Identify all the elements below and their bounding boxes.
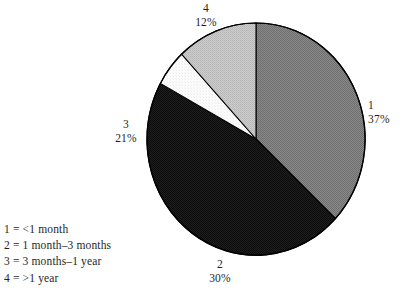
pie-label-slice-3-value: 21% bbox=[100, 132, 152, 146]
pie-svg bbox=[146, 22, 366, 256]
pie-label-slice-1: 1 37% bbox=[368, 99, 418, 126]
pie-label-slice-4: 4 12% bbox=[178, 2, 234, 29]
legend-item-4: 4 = >1 year bbox=[4, 270, 111, 286]
legend-item-2: 2 = 1 month–3 months bbox=[4, 237, 111, 253]
pie-label-slice-3-key: 3 bbox=[100, 118, 152, 132]
legend-item-3: 3 = 3 months–1 year bbox=[4, 253, 111, 269]
pie-label-slice-4-value: 12% bbox=[178, 16, 234, 30]
pie-label-slice-2: 2 30% bbox=[188, 258, 252, 285]
pie-label-slice-2-key: 2 bbox=[188, 258, 252, 272]
pie-label-slice-4-key: 4 bbox=[178, 2, 234, 16]
pie-chart-figure: 1 37% 2 30% 3 21% 4 12% 1 = <1 month 2 =… bbox=[0, 0, 418, 299]
pie-label-slice-1-value: 37% bbox=[368, 113, 418, 127]
pie-label-slice-2-value: 30% bbox=[188, 272, 252, 286]
pie-label-slice-3: 3 21% bbox=[100, 118, 152, 145]
chart-legend: 1 = <1 month 2 = 1 month–3 months 3 = 3 … bbox=[4, 221, 111, 286]
legend-item-1: 1 = <1 month bbox=[4, 221, 111, 237]
pie-label-slice-1-key: 1 bbox=[368, 99, 418, 113]
pie-chart-graphic bbox=[146, 22, 366, 256]
